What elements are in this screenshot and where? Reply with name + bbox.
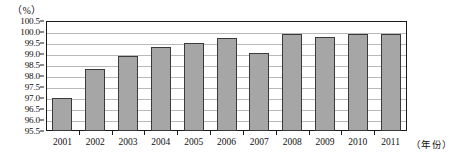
y-axis-labels: 100.5100.099.599.098.598.097.597.096.596…	[0, 21, 44, 131]
x-tick-label: 2005	[184, 137, 203, 147]
bar	[52, 98, 72, 131]
bars-group	[46, 21, 407, 131]
x-tick-mark	[374, 131, 375, 135]
bar	[85, 69, 105, 131]
y-tick-label: 95.5	[25, 126, 40, 136]
x-tick-label: 2001	[53, 137, 72, 147]
y-tick-mark	[40, 32, 44, 33]
bar	[151, 47, 171, 131]
bar	[118, 56, 138, 131]
x-axis-title: （年份）	[411, 137, 452, 151]
y-tick-label: 100.0	[20, 27, 40, 37]
x-tick-mark	[276, 131, 277, 135]
y-axis-unit-label: （%）	[12, 2, 42, 17]
y-tick-mark	[40, 21, 44, 22]
y-tick-label: 96.5	[25, 104, 40, 114]
x-tick-label: 2011	[381, 137, 400, 147]
x-tick-mark	[177, 131, 178, 135]
x-tick-mark	[309, 131, 310, 135]
x-tick-mark	[112, 131, 113, 135]
x-tick-mark	[341, 131, 342, 135]
x-tick-mark	[210, 131, 211, 135]
bar	[315, 37, 335, 131]
x-tick-label: 2003	[119, 137, 138, 147]
y-tick-mark	[40, 98, 44, 99]
bar	[282, 34, 302, 131]
bar	[249, 53, 269, 131]
x-tick-mark	[144, 131, 145, 135]
bar-chart: （%） 100.5100.099.599.098.598.097.597.096…	[0, 0, 457, 161]
y-tick-mark	[40, 54, 44, 55]
y-tick-mark	[40, 87, 44, 88]
bar	[217, 38, 237, 131]
y-tick-label: 99.0	[25, 49, 40, 59]
x-tick-mark	[79, 131, 80, 135]
x-axis-labels: 2001200220032004200520062007200820092010…	[46, 137, 407, 153]
y-tick-mark	[40, 109, 44, 110]
y-tick-mark	[40, 120, 44, 121]
bar	[184, 43, 204, 131]
x-tick-label: 2008	[283, 137, 302, 147]
x-tick-label: 2004	[151, 137, 170, 147]
bar	[348, 34, 368, 131]
y-tick-label: 99.5	[25, 38, 40, 48]
x-tick-label: 2009	[315, 137, 334, 147]
y-tick-label: 97.5	[25, 82, 40, 92]
bar	[381, 34, 401, 131]
x-tick-label: 2007	[250, 137, 269, 147]
x-tick-label: 2006	[217, 137, 236, 147]
y-tick-label: 100.5	[20, 16, 40, 26]
x-tick-mark	[243, 131, 244, 135]
x-tick-label: 2002	[86, 137, 105, 147]
x-axis-ticks	[46, 131, 407, 136]
x-tick-label: 2010	[348, 137, 367, 147]
y-tick-label: 98.5	[25, 60, 40, 70]
y-tick-mark	[40, 131, 44, 132]
y-tick-mark	[40, 76, 44, 77]
y-tick-label: 98.0	[25, 71, 40, 81]
y-tick-mark	[40, 65, 44, 66]
y-tick-label: 97.0	[25, 93, 40, 103]
y-tick-label: 96.0	[25, 115, 40, 125]
y-tick-mark	[40, 43, 44, 44]
